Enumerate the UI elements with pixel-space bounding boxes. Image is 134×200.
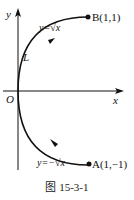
point-A bbox=[87, 162, 92, 167]
curve-name-label: L bbox=[22, 51, 29, 63]
point-B-label: B(1,1) bbox=[92, 11, 121, 24]
origin-label: O bbox=[6, 93, 14, 105]
direction-arrow-upper-icon bbox=[48, 38, 55, 44]
figure-caption: 图 15-3-1 bbox=[0, 178, 134, 194]
point-B bbox=[86, 15, 91, 20]
lower-curve-label: y=−√x bbox=[36, 157, 65, 168]
upper-curve-label: y=√x bbox=[38, 22, 61, 33]
x-axis-label: x bbox=[112, 94, 118, 106]
direction-arrow-lower-icon bbox=[50, 139, 58, 147]
point-A-label: A(1,−1) bbox=[92, 158, 128, 171]
y-axis-label: y bbox=[5, 8, 11, 20]
parabola-diagram: y x O L y=√x y=−√x B(1,1) A(1,−1) bbox=[0, 0, 134, 178]
